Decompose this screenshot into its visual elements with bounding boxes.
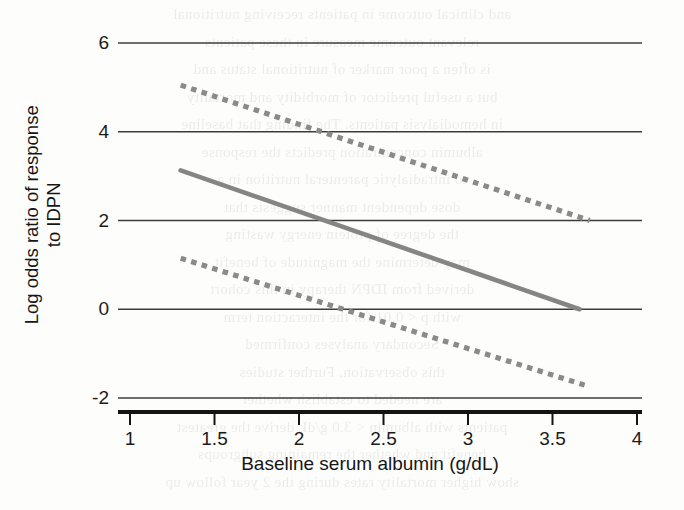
data-lines	[181, 85, 590, 385]
x-axis	[118, 412, 642, 425]
gridlines	[118, 43, 642, 398]
chart-figure: 6420-2 11.522.533.54 Log odds ratio of r…	[0, 0, 684, 510]
x-axis-label: Baseline serum albumin (g/dL)	[90, 453, 650, 475]
x-tick-label: 3	[438, 429, 498, 448]
x-tick-label: 3.5	[523, 429, 583, 448]
x-tick-label: 2.5	[354, 429, 414, 448]
x-tick-label: 1	[100, 429, 160, 448]
x-tick-label: 2	[269, 429, 329, 448]
y-axis-label-line-2: to IDPN	[43, 105, 65, 324]
x-tick-label: 1.5	[185, 429, 245, 448]
y-axis-label: Log odds ratio of response to IDPN	[6, 0, 80, 430]
y-axis-label-line-1: Log odds ratio of response	[21, 105, 43, 324]
x-tick-label: 4	[607, 429, 667, 448]
